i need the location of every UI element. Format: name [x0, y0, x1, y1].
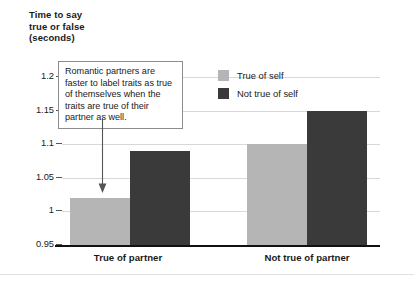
y-axis-title: Time to say true or false (seconds) — [29, 9, 85, 44]
annotation-callout: Romantic partners are faster to label tr… — [58, 61, 183, 129]
legend-item-true-of-self: True of self — [218, 68, 298, 83]
y-tick-mark — [56, 177, 62, 178]
legend: True of self Not true of self — [218, 68, 298, 104]
legend-swatch-icon-not-true-of-self — [218, 88, 229, 99]
y-tick-mark — [56, 143, 62, 144]
legend-swatch-icon-true-of-self — [218, 70, 229, 81]
y-tick-mark — [56, 210, 62, 211]
y-axis-tick-1-1: 1.1 — [20, 138, 54, 148]
bar-true-of-partner-true-of-self — [70, 198, 130, 245]
legend-label-not-true-of-self: Not true of self — [237, 88, 298, 99]
x-axis-label-not-true-of-partner: Not true of partner — [225, 252, 389, 263]
bar-chart-figure: Time to say true or false (seconds) 1.21… — [0, 0, 414, 284]
y-axis-tick-1-15: 1.15 — [20, 105, 54, 115]
y-axis-tick-1-2: 1.2 — [20, 71, 54, 81]
bottom-divider — [0, 274, 414, 275]
x-axis-label-true-of-partner: True of partner — [48, 252, 208, 263]
legend-label-true-of-self: True of self — [237, 70, 284, 81]
bar-true-of-partner-not-true-of-self — [130, 151, 190, 245]
y-axis-tick-1-05: 1.05 — [20, 172, 54, 182]
y-axis-tick-0-95: 0.95 — [20, 239, 54, 249]
bar-not-true-of-partner-true-of-self — [247, 144, 307, 245]
bar-not-true-of-partner-not-true-of-self — [307, 111, 367, 245]
annotation-arrow-icon — [98, 118, 107, 194]
y-axis-tick-1: 1 — [20, 205, 54, 215]
legend-item-not-true-of-self: Not true of self — [218, 86, 298, 101]
x-axis-line — [55, 245, 380, 247]
